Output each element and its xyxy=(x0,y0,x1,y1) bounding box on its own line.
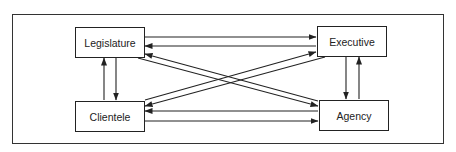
node-label: Legislature xyxy=(84,37,135,49)
node-clientele: Clientele xyxy=(75,101,145,132)
node-executive: Executive xyxy=(317,26,387,57)
node-label: Executive xyxy=(329,36,375,48)
arrow-clientele-to-executive xyxy=(145,52,316,100)
node-agency: Agency xyxy=(319,100,389,131)
node-legislature: Legislature xyxy=(75,27,145,58)
node-label: Clientele xyxy=(90,111,131,123)
arrow-legislature-to-agency xyxy=(138,58,318,106)
arrow-agency-to-legislature xyxy=(145,54,318,101)
arrow-executive-to-clientele xyxy=(145,57,325,106)
node-label: Agency xyxy=(336,110,371,122)
